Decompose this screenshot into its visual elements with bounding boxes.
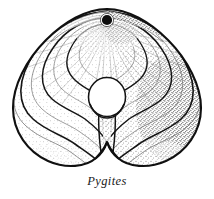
shell-body [0, 0, 214, 172]
figure-root: Pygites [0, 0, 214, 199]
brachiopod-illustration [0, 0, 214, 172]
central-perforation [89, 78, 126, 119]
foramen [100, 13, 113, 26]
figure-caption: Pygites [0, 173, 214, 189]
